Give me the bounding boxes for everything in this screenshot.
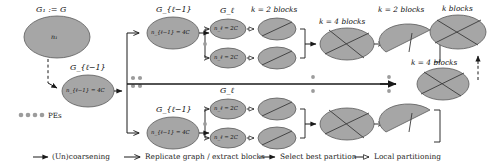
pes-label: PEs	[48, 111, 62, 120]
replicate-fanout-bracket-bottom	[203, 109, 209, 138]
header-k2-top: k = 2 blocks	[251, 6, 297, 13]
figure-canvas: G₁ := G G_{ℓ−1} G_{ℓ−1} G_{ℓ−1} G_ℓ G_ℓ …	[0, 0, 499, 167]
label-n-l-minus-1-bottom: n_{ℓ−1} = 4C	[151, 130, 190, 135]
partition-k2-c	[258, 98, 296, 120]
label-g-l-minus-1-left: G_{ℓ−1}	[70, 64, 106, 72]
label-n-l-top-a: n_ℓ = 2C	[214, 26, 238, 31]
header-k-blocks: k blocks	[442, 5, 473, 12]
label-n1: n₁	[51, 34, 58, 40]
diagram-vector-layer	[0, 0, 499, 167]
partition-k2-b	[258, 47, 296, 69]
label-g-l-bottom: G_ℓ	[220, 87, 234, 95]
header-k4-mid: k = 4 blocks	[319, 18, 365, 25]
legend-item-local-partitioning: Local partitioning	[374, 152, 441, 161]
label-n-l-bottom-a: n_ℓ = 2C	[214, 106, 238, 111]
partition-k4-top	[320, 28, 374, 60]
label-g-l-top: G_ℓ	[220, 7, 234, 15]
label-g-l-minus-1-top: G_{ℓ−1}	[156, 6, 192, 14]
header-k4-final: k = 4 blocks	[411, 59, 457, 66]
label-g-l-minus-1-bottom: G_{ℓ−1}	[156, 106, 192, 114]
partition-k-blocks-final	[430, 15, 486, 49]
label-n-l-top-b: n_ℓ = 2C	[214, 55, 238, 60]
partition-k2-d	[258, 127, 296, 149]
legend-item-replicate-extract: Replicate graph / extract blocks	[145, 152, 265, 161]
legend-item-uncoarsening: (Un)coarsening	[52, 152, 110, 161]
partition-k2-a	[258, 18, 296, 40]
replicate-fanout-bar-1	[127, 33, 139, 133]
select-best-bracket-bottom	[300, 109, 316, 138]
pes-legend-dots	[19, 113, 45, 118]
label-g1: G₁ := G	[36, 6, 66, 14]
select-best-bracket-top	[300, 29, 316, 58]
extracted-block-bottom	[379, 104, 430, 132]
partition-k4-bottom	[320, 108, 374, 140]
arrow-coarsening-left	[48, 59, 57, 88]
label-n-l-bottom-b: n_ℓ = 2C	[214, 135, 238, 140]
label-n-l-minus-1-top: n_{ℓ−1} = 4C	[151, 30, 190, 35]
header-k2-right: k = 2 blocks	[378, 6, 424, 13]
legend-item-select-best: Select best partition	[280, 152, 356, 161]
partition-k4-final	[417, 68, 469, 100]
pe-dots-bar-1	[131, 76, 142, 88]
label-n-l-minus-1-left: n_{ℓ−1} = 4C	[66, 88, 105, 93]
extracted-block-top	[379, 24, 430, 52]
